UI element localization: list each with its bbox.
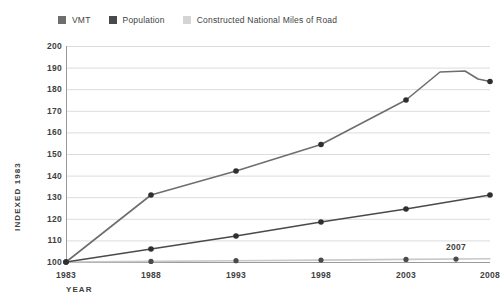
series-line-population	[66, 195, 490, 262]
series-line-vmt	[66, 71, 490, 262]
annotation-2007: 2007	[436, 242, 476, 252]
x-axis-title: YEAR	[66, 285, 93, 294]
chart-container: VMT Population Constructed National Mile…	[0, 0, 501, 305]
chart-plot-area	[0, 0, 501, 305]
x-tick-1993: 1993	[216, 270, 256, 280]
x-tick-2003: 2003	[386, 270, 426, 280]
x-tick-1983: 1983	[46, 270, 86, 280]
x-tick-1988: 1988	[131, 270, 171, 280]
series-markers-vmt	[63, 79, 493, 265]
x-tick-1998: 1998	[301, 270, 341, 280]
x-tick-2008: 2008	[470, 270, 501, 280]
series-line-road	[66, 259, 490, 262]
